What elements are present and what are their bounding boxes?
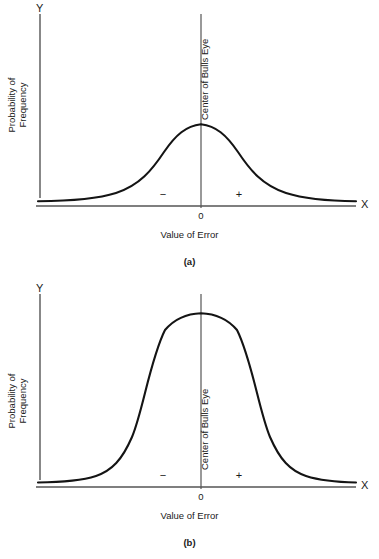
figure-caption-b: (b) xyxy=(0,537,379,548)
center-of-bulls-eye-label-a: Center of Bulls Eye xyxy=(199,39,210,120)
x-axis-letter-a: X xyxy=(361,198,368,210)
figure-caption-a: (a) xyxy=(0,256,379,267)
x-axis-label-a: Value of Error xyxy=(0,229,379,240)
distribution-curve-b xyxy=(38,313,356,482)
distribution-curve-a xyxy=(38,124,356,201)
y-axis-label-a: Probability of Frequency xyxy=(6,55,28,155)
negative-sign-a: − xyxy=(157,188,169,200)
figure-a: Y X Probability of Frequency Center of B… xyxy=(0,0,379,280)
figure-b: Y X Probability of Frequency Center of B… xyxy=(0,280,379,559)
positive-sign-a: + xyxy=(233,188,245,200)
x-axis-letter-b: X xyxy=(361,479,368,491)
y-axis-letter-a: Y xyxy=(36,2,43,14)
y-axis-label-line-1-a: Probability of xyxy=(6,55,17,155)
y-axis-label-b: Probability of Frequency xyxy=(6,351,28,451)
negative-sign-b: − xyxy=(157,469,169,481)
positive-sign-b: + xyxy=(233,469,245,481)
x-axis-label-b: Value of Error xyxy=(0,510,379,521)
y-axis-letter-b: Y xyxy=(36,282,43,294)
y-axis-label-line-1-b: Probability of xyxy=(6,351,17,451)
x-tick-zero-b: 0 xyxy=(195,491,207,502)
y-axis-label-line-2-b: Frequency xyxy=(17,351,28,451)
x-tick-zero-a: 0 xyxy=(195,210,207,221)
center-of-bulls-eye-label-b: Center of Bulls Eye xyxy=(199,389,210,470)
y-axis-label-line-2-a: Frequency xyxy=(17,55,28,155)
